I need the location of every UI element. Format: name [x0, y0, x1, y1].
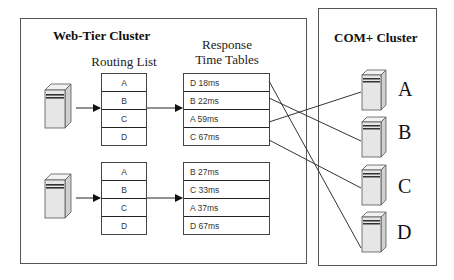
response-time-row: D 67ms: [184, 217, 269, 234]
routing-list-row: A: [102, 74, 146, 92]
response-time-row: C 67ms: [184, 128, 269, 145]
web-server-icon-2: [43, 172, 73, 220]
routing-list-2: A B C D: [101, 162, 147, 235]
com-server-icon-a: [360, 68, 388, 112]
com-server-icon-c: [360, 163, 388, 207]
response-time-row: D 18ms: [184, 74, 269, 92]
response-time-row: A 37ms: [184, 199, 269, 217]
routing-list-row: D: [102, 217, 146, 234]
com-server-label-d: D: [397, 221, 411, 244]
routing-list-1: A B C D: [101, 73, 147, 146]
response-time-row: C 33ms: [184, 181, 269, 199]
response-time-caption: Response Time Tables: [183, 37, 271, 67]
web-server-icon-1: [43, 82, 73, 130]
response-time-caption-line1: Response: [183, 37, 271, 52]
com-server-label-c: C: [398, 175, 411, 198]
response-time-table-1: D 18ms B 22ms A 59ms C 67ms: [183, 73, 270, 146]
com-server-label-b: B: [398, 121, 411, 144]
web-tier-cluster-title: Web-Tier Cluster: [53, 28, 150, 44]
response-time-caption-line2: Time Tables: [183, 52, 271, 67]
routing-list-row: C: [102, 110, 146, 128]
routing-list-row: C: [102, 199, 146, 217]
routing-list-row: D: [102, 128, 146, 145]
com-cluster-title: COM+ Cluster: [334, 30, 418, 46]
routing-list-caption: Routing List: [90, 54, 158, 69]
routing-list-row: B: [102, 92, 146, 110]
com-server-label-a: A: [398, 78, 412, 101]
routing-list-row: B: [102, 181, 146, 199]
response-time-table-2: B 27ms C 33ms A 37ms D 67ms: [183, 162, 270, 235]
com-server-icon-d: [360, 210, 388, 254]
com-server-icon-b: [360, 115, 388, 159]
response-time-row: B 22ms: [184, 92, 269, 110]
response-time-row: B 27ms: [184, 163, 269, 181]
response-time-row: A 59ms: [184, 110, 269, 128]
routing-list-row: A: [102, 163, 146, 181]
